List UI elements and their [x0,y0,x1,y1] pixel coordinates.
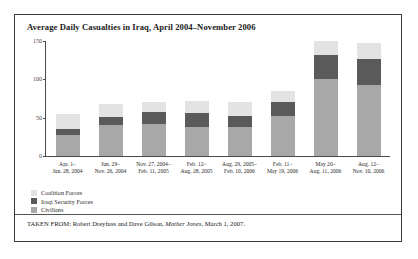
x-tick-label: Nov. 27, 2004–Feb. 11, 2005 [132,161,175,175]
bar-segment-coalition-forces [314,41,338,55]
bar-segment-coalition-forces [271,91,295,103]
bar-segment-iraqi-security-forces [314,55,338,80]
legend-swatch [31,198,37,204]
bar-slot [304,41,347,156]
x-tick-label: Feb. 11–May 19, 2006 [261,161,304,175]
x-tick-label: Feb. 12–Aug. 28, 2005 [175,161,218,175]
bar-slot [132,41,175,156]
bar-segment-civilians [185,127,209,156]
stacked-bar[interactable] [357,43,381,156]
y-tick-mark [43,79,46,80]
x-tick-label: Aug. 29, 2005–Feb. 10, 2006 [218,161,261,175]
source-note: TAKEN FROM: Robert Dreyfuss and Dave Gil… [27,220,245,227]
stacked-bar[interactable] [228,102,252,156]
y-tick-label: 100 [33,76,42,82]
bar-segment-iraqi-security-forces [99,117,123,125]
bar-slot [89,41,132,156]
bar-segment-civilians [228,127,252,156]
legend-label: Coalition Forces [41,189,82,196]
bar-segment-iraqi-security-forces [357,59,381,84]
bar-segment-civilians [314,79,338,156]
y-tick-mark [43,118,46,119]
legend-swatch [31,190,37,196]
y-tick-mark [43,156,46,157]
bar-segment-civilians [142,124,166,156]
plot-area: 050100150 [45,41,390,157]
stacked-bar[interactable] [56,114,80,156]
bar-segment-iraqi-security-forces [271,102,295,116]
bar-segment-coalition-forces [142,102,166,111]
bar-segment-coalition-forces [357,43,381,59]
bar-segment-iraqi-security-forces [228,116,252,127]
y-tick-label: 50 [36,115,42,121]
x-tick-label: Jun. 29–Nov. 26, 2004 [89,161,132,175]
legend-item: Coalition Forces [31,189,93,196]
bar-segment-iraqi-security-forces [142,112,166,124]
bar-segment-coalition-forces [99,104,123,117]
bar-segment-civilians [271,116,295,156]
chart-title: Average Daily Casualties in Iraq, April … [27,22,256,32]
bar-slot [175,41,218,156]
legend-swatch [31,207,37,213]
x-tick-label: Aug. 12–Nov. 10, 2006 [347,161,390,175]
y-tick-label: 150 [33,38,42,44]
bar-slot [46,41,89,156]
x-axis-labels: Apr. 1–Jun. 28, 2004Jun. 29–Nov. 26, 200… [46,161,390,175]
bar-segment-civilians [357,85,381,156]
bar-series-group [46,41,390,156]
stacked-bar[interactable] [185,101,209,156]
bar-segment-coalition-forces [185,101,209,113]
bar-slot [218,41,261,156]
legend-item: Civilians [31,206,93,213]
chart-legend: Coalition ForcesIraqi Security ForcesCiv… [31,189,93,215]
bar-slot [261,41,304,156]
bar-segment-coalition-forces [228,102,252,116]
legend-item: Iraqi Security Forces [31,198,93,205]
bar-slot [347,41,390,156]
stacked-bar[interactable] [314,41,338,156]
stacked-bar[interactable] [99,104,123,156]
source-prefix: TAKEN FROM: Robert Dreyfuss and Dave Gil… [27,220,165,227]
legend-label: Civilians [41,206,63,213]
x-axis-line [45,156,390,157]
x-tick-label: Apr. 1–Jun. 28, 2004 [46,161,89,175]
source-publication: Mother Jones [165,220,201,227]
legend-label: Iraqi Security Forces [41,198,93,205]
divider [15,214,401,215]
bar-segment-civilians [99,125,123,156]
bar-segment-coalition-forces [56,114,80,129]
source-suffix: , March 1, 2007. [201,220,245,227]
stacked-bar[interactable] [142,102,166,156]
x-tick-label: May 20–Aug. 11, 2006 [304,161,347,175]
stacked-bar[interactable] [271,91,295,156]
figure-frame: Average Daily Casualties in Iraq, April … [14,14,402,242]
bar-segment-iraqi-security-forces [185,113,209,127]
bar-segment-civilians [56,135,80,156]
y-tick-mark [43,41,46,42]
